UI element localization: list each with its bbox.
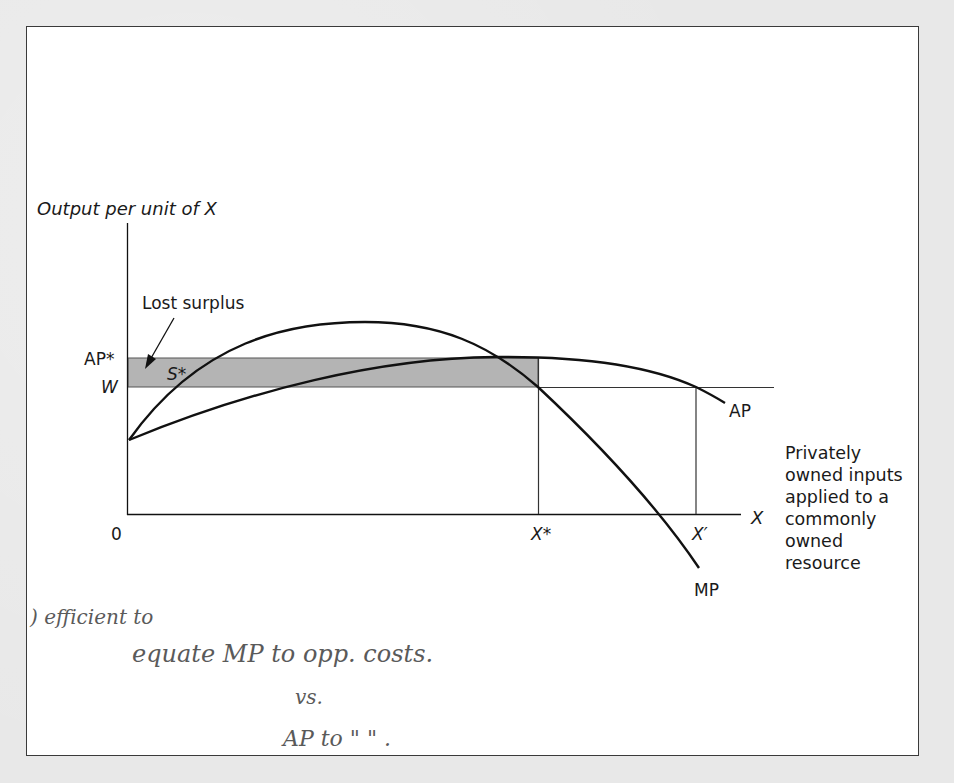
ap-curve-label: AP — [729, 401, 751, 421]
lost-surplus-region — [128, 358, 538, 387]
handwritten-line-4: AP to " " . — [281, 726, 391, 751]
origin-label: 0 — [111, 524, 122, 544]
handwritten-line-1: ) efficient to — [29, 605, 153, 629]
y-tick-w: W — [101, 377, 119, 397]
side-note-line: owned — [785, 531, 843, 551]
side-note-line: commonly — [785, 509, 876, 529]
mp-curve-label: MP — [694, 580, 719, 600]
lost-surplus-arrow — [150, 318, 174, 360]
x-tick-x-prime: X′ — [691, 524, 708, 544]
handwritten-line-2: equate MP to opp. costs. — [132, 640, 433, 668]
y-axis-label: Output per unit of X — [37, 198, 218, 219]
side-note-line: applied to a — [785, 487, 889, 507]
handwritten-line-3: vs. — [295, 685, 323, 709]
common-resource-diagram: Output per unit of X Lost surplus AP* W … — [0, 0, 954, 783]
shaded-region-label: S* — [167, 364, 186, 384]
x-tick-x-star: X* — [530, 524, 551, 544]
side-note: Privately owned inputs applied to a comm… — [785, 443, 903, 573]
handwritten-notes: ) efficient to equate MP to opp. costs. … — [29, 605, 433, 751]
side-note-line: resource — [785, 553, 861, 573]
y-tick-ap-star: AP* — [84, 349, 114, 369]
side-note-line: Privately — [785, 443, 861, 463]
lost-surplus-label: Lost surplus — [142, 293, 244, 313]
side-note-line: owned inputs — [785, 465, 903, 485]
x-axis-label: X — [750, 507, 764, 528]
